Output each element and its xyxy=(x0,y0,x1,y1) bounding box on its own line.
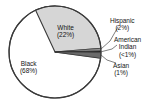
slice-label-american-indian: American Indian (<1%) xyxy=(114,36,141,58)
slice-label-asian-value: (1%) xyxy=(113,69,129,76)
slice-label-american-indian-line1: American xyxy=(114,36,141,43)
slice-label-hispanic: Hispanic (2%) xyxy=(110,17,135,32)
slice-label-asian-name: Asian xyxy=(113,62,129,69)
pie-chart: White (22%) Black (68%) Hispanic (2%) Am… xyxy=(0,0,161,105)
slice-label-black: Black (68%) xyxy=(20,60,37,75)
slice-label-black-value: (68%) xyxy=(20,67,37,74)
slice-label-american-indian-line2: Indian xyxy=(114,43,141,50)
slice-label-white-name: White xyxy=(57,24,74,31)
slice-label-white-value: (22%) xyxy=(57,31,74,38)
slice-label-hispanic-value: (2%) xyxy=(110,24,135,31)
slice-label-asian: Asian (1%) xyxy=(113,62,129,77)
slice-label-black-name: Black xyxy=(20,60,37,67)
slice-label-hispanic-name: Hispanic xyxy=(110,17,135,24)
slice-label-white: White (22%) xyxy=(57,24,74,39)
slice-label-american-indian-value: (<1%) xyxy=(114,51,141,58)
